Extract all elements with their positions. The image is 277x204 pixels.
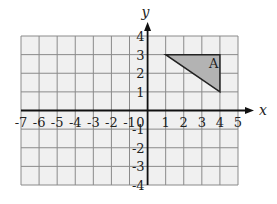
x-tick-label: -6	[33, 115, 46, 130]
x-tick-label: -2	[105, 115, 118, 130]
x-axis-arrow-icon	[245, 107, 254, 114]
y-tick-label: 1	[136, 85, 144, 100]
y-tick-label: 4	[136, 29, 144, 44]
y-tick-label: 3	[136, 48, 144, 63]
y-axis-label: y	[141, 4, 151, 20]
x-tick-label: 4	[216, 115, 224, 130]
x-tick-label: 2	[180, 115, 188, 130]
x-tick-label: 5	[234, 115, 242, 130]
x-tick-label: -5	[51, 115, 64, 130]
x-tick-label: 3	[198, 115, 206, 130]
y-tick-label: -2	[132, 141, 145, 156]
x-axis-label: x	[259, 102, 267, 118]
y-tick-label: -4	[132, 178, 145, 193]
x-tick-label: 1	[162, 115, 170, 130]
x-tick-label: -7	[15, 115, 28, 130]
y-tick-label: -3	[132, 159, 145, 174]
x-tick-label: -4	[69, 115, 82, 130]
x-tick-label: -3	[87, 115, 100, 130]
y-axis-arrow-icon	[144, 22, 151, 31]
coordinate-plane: Axy-7-6-5-4-3-2-1123454321-1-2-3-40	[0, 0, 277, 204]
y-tick-label: 2	[136, 66, 144, 81]
shape-label: A	[208, 56, 219, 71]
origin-label: 0	[136, 115, 144, 130]
